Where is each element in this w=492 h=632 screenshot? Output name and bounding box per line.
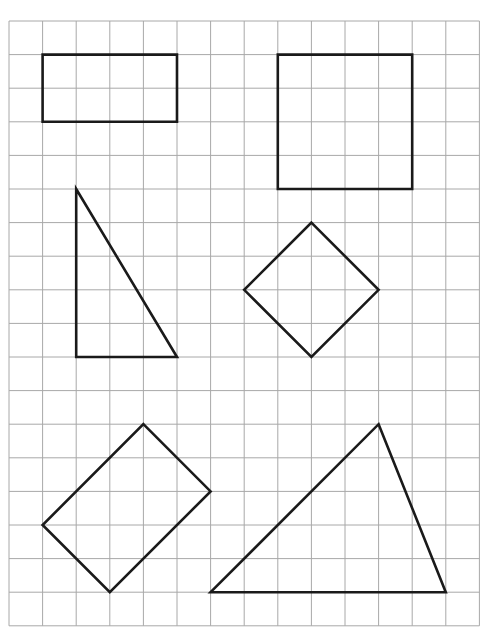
grid-lines <box>9 21 479 626</box>
rotated-rectangle <box>43 424 211 592</box>
grid-paper-diagram <box>0 0 492 632</box>
scalene-triangle <box>211 424 446 592</box>
right-triangle <box>76 189 177 357</box>
